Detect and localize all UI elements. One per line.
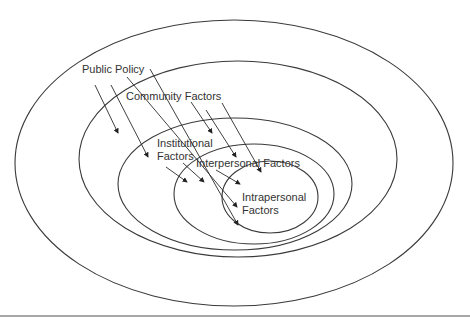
- arrow-community-2: [206, 110, 236, 157]
- label-institutional-factors-line2: Factors: [157, 150, 194, 162]
- arrow-interpersonal-1: [216, 170, 240, 184]
- arrow-community-1: [191, 102, 212, 133]
- label-community-factors: Community Factors: [126, 90, 222, 102]
- label-intrapersonal-factors-line2: Factors: [242, 204, 279, 216]
- ring-institutional-factors: [118, 118, 352, 250]
- label-interpersonal-factors: Interpersonal Factors: [196, 157, 300, 169]
- socio-ecological-diagram: Public Policy Community Factors Institut…: [0, 0, 470, 321]
- label-intrapersonal-factors-line1: Intrapersonal: [242, 191, 306, 203]
- label-public-policy: Public Policy: [82, 63, 145, 75]
- label-institutional-factors-line1: Institutional: [157, 137, 213, 149]
